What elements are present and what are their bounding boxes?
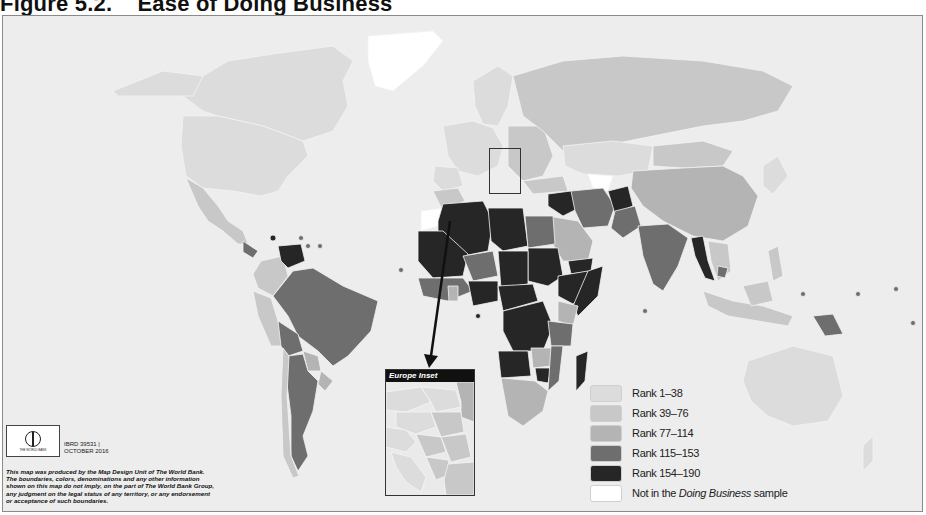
region-greenland — [368, 31, 443, 91]
disclaimer-text: This map was produced by the Map Design … — [6, 468, 216, 504]
europe-inset-map — [386, 382, 474, 495]
legend-item-rank-77-114: Rank 77–114 — [590, 423, 830, 443]
region-alaska — [113, 71, 203, 96]
europe-inset-marker — [489, 148, 521, 194]
world-bank-logo: THE WORLD BANK — [6, 425, 60, 457]
legend-label: Rank 1–38 — [632, 387, 683, 399]
region-cambodia — [717, 266, 728, 278]
legend-item-not-in-sample: Not in the Doing Business sample — [590, 483, 830, 503]
legend-label: Rank 154–190 — [632, 467, 700, 479]
region-india — [638, 224, 688, 291]
region-west-africa — [418, 278, 473, 301]
legend-item-rank-115-153: Rank 115–153 — [590, 443, 830, 463]
region-new-zealand — [863, 436, 873, 471]
region-pakistan — [611, 206, 641, 238]
legend-swatch — [590, 425, 622, 442]
globe-icon — [25, 431, 41, 447]
legend-swatch — [590, 385, 622, 402]
legend-label: Rank 115–153 — [632, 447, 699, 459]
region-iberia — [433, 166, 463, 191]
region-central-america — [243, 241, 258, 258]
region-russia — [513, 56, 793, 151]
region-tanzania — [548, 321, 573, 346]
region-borneo — [743, 281, 773, 306]
inset-title: Europe Inset — [386, 370, 474, 382]
legend-swatch — [590, 465, 622, 482]
region-korea-japan — [763, 156, 788, 194]
legend-item-rank-39-76: Rank 39–76 — [590, 403, 830, 423]
region-chad — [498, 251, 528, 288]
region-png — [813, 314, 843, 336]
region-ghana — [448, 286, 458, 301]
map-id: IBRD 39531 | OCTOBER 2016 — [64, 441, 109, 455]
map-credit: THE WORLD BANK IBRD 39531 | OCTOBER 2016… — [6, 425, 226, 504]
legend-label: Rank 39–76 — [632, 407, 688, 419]
region-cuba — [270, 235, 276, 241]
region-egypt — [525, 216, 555, 248]
region-mongolia — [653, 141, 733, 168]
region-uruguay — [318, 371, 333, 391]
legend-label: Rank 77–114 — [632, 427, 693, 439]
legend-swatch — [590, 485, 622, 502]
region-angola — [498, 351, 531, 378]
legend-label: Not in the Doing Business sample — [632, 487, 788, 499]
region-libya — [488, 208, 528, 251]
region-scandinavia — [473, 66, 513, 126]
europe-inset: Europe Inset — [385, 369, 475, 496]
region-niger — [463, 251, 498, 281]
arrow-head — [424, 354, 438, 368]
region-philippines — [768, 246, 783, 281]
legend-swatch — [590, 445, 622, 462]
region-southern-africa — [501, 378, 548, 426]
legend-item-rank-1-38: Rank 1–38 — [590, 383, 830, 403]
legend-item-rank-154-190: Rank 154–190 — [590, 463, 830, 483]
legend-swatch — [590, 405, 622, 422]
region-mozambique — [548, 346, 563, 391]
region-madagascar — [576, 351, 588, 391]
map-legend: Rank 1–38 Rank 39–76 Rank 77–114 Rank 11… — [590, 383, 830, 503]
region-nigeria — [468, 281, 498, 306]
